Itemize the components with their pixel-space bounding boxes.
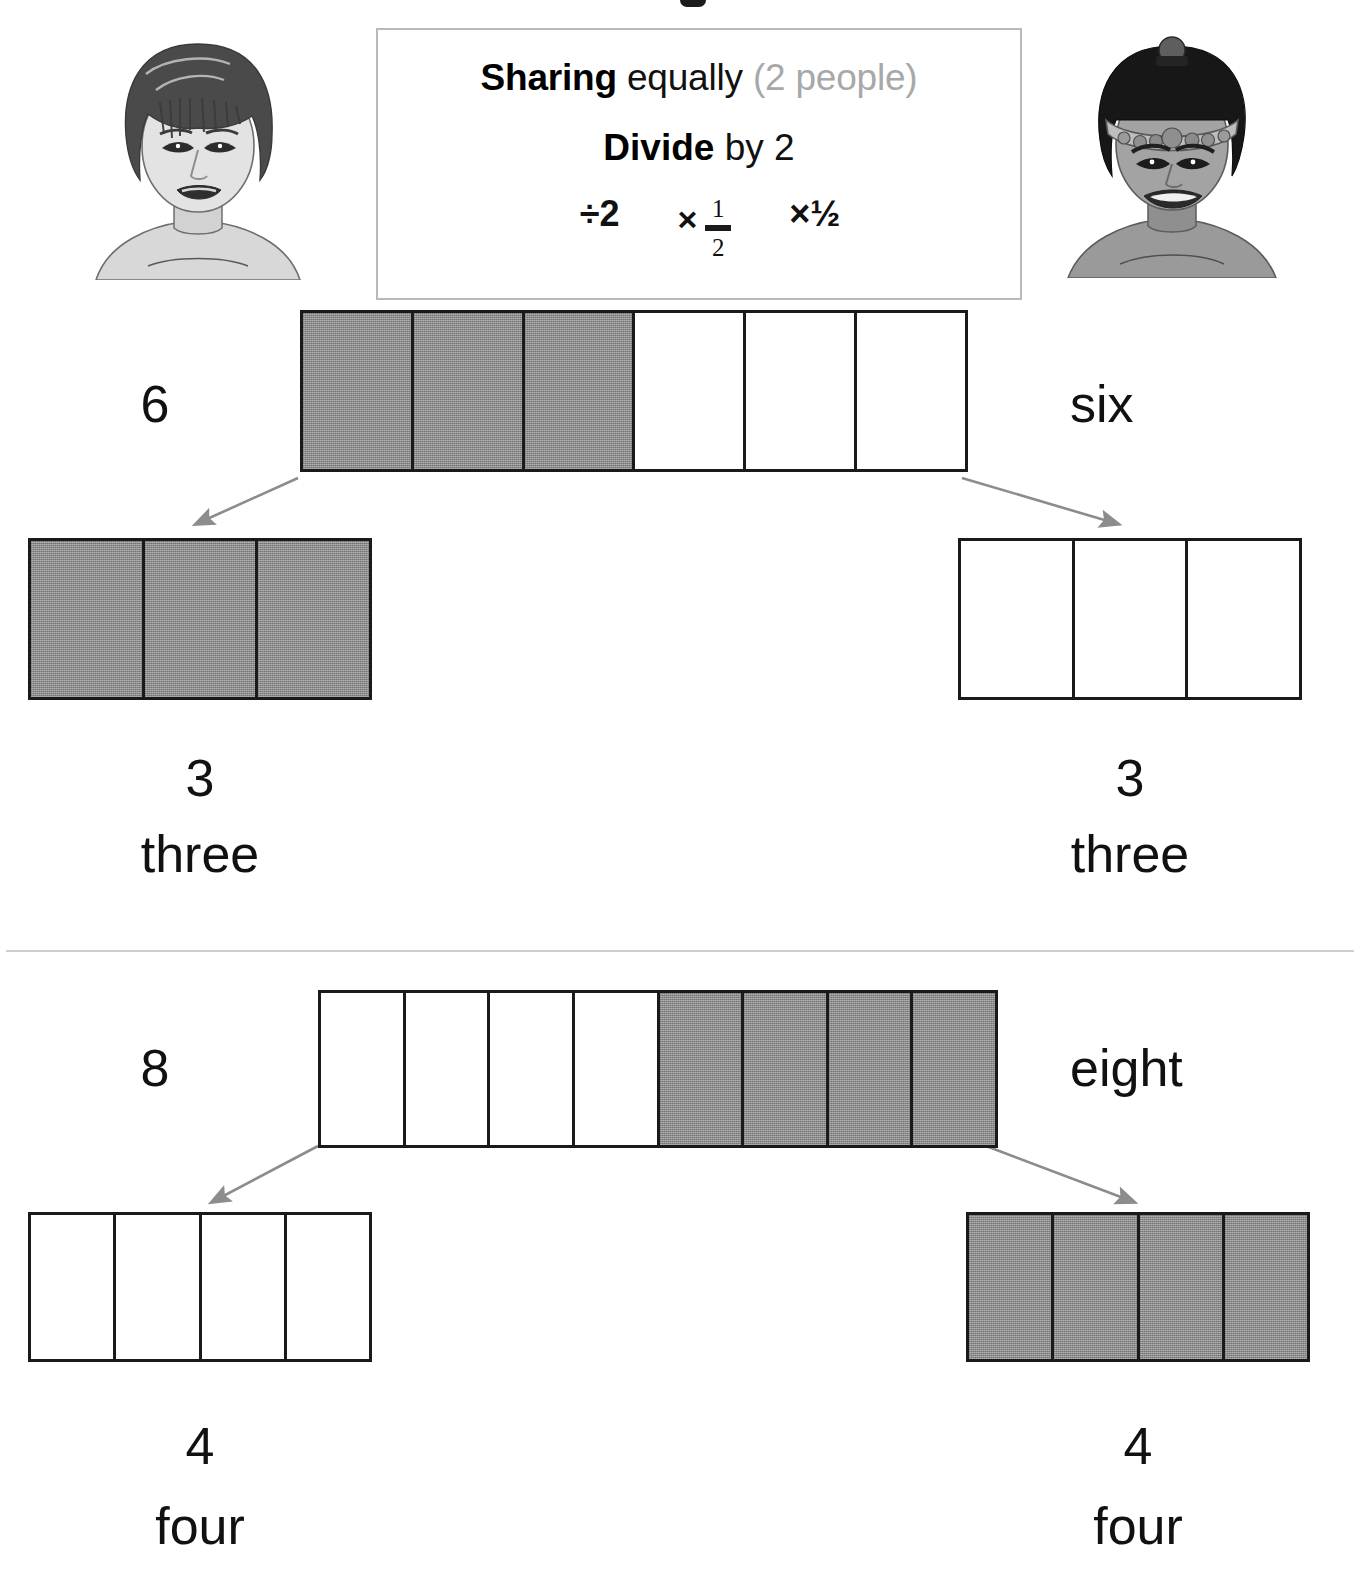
label-four-right-digit: 4 xyxy=(1038,1420,1238,1472)
bar-model-three-left xyxy=(28,538,372,700)
bar-cell-shaded xyxy=(303,313,414,469)
bar-model-four-left xyxy=(28,1212,372,1362)
bar-cell-empty xyxy=(202,1215,287,1359)
bar-cell-empty xyxy=(635,313,746,469)
concept-divide-strong: Divide xyxy=(603,127,714,168)
notation-times-slashed-half-text: ×½ xyxy=(789,196,840,232)
label-three-right-word: three xyxy=(1030,828,1230,880)
label-four-right-word: four xyxy=(1038,1500,1238,1552)
concept-sharing-normal: equally xyxy=(617,57,753,98)
notation-row: ÷2 × 1 2 ×½ xyxy=(378,196,1020,261)
label-six-word: six xyxy=(1070,378,1270,430)
bar-model-three-right xyxy=(958,538,1302,700)
fraction-denominator: 2 xyxy=(712,235,725,261)
label-six-digit: 6 xyxy=(100,378,210,430)
bar-cell-shaded xyxy=(1225,1215,1307,1359)
bar-cell-empty xyxy=(321,993,406,1145)
arrow-six-to-left-three xyxy=(196,478,298,524)
label-three-left-digit: 3 xyxy=(100,752,300,804)
bar-cell-empty xyxy=(287,1215,369,1359)
arrow-eight-to-left-four xyxy=(212,1146,318,1202)
concept-sharing-strong: Sharing xyxy=(481,57,617,98)
stacked-fraction: 1 2 xyxy=(705,196,731,261)
section-divider xyxy=(6,950,1354,952)
avatar-person-beaded-headband xyxy=(1052,28,1292,278)
label-eight-word: eight xyxy=(1070,1042,1310,1094)
multiplication-sign-icon: × xyxy=(677,202,697,236)
bar-cell-empty xyxy=(406,993,491,1145)
fraction-numerator: 1 xyxy=(712,196,725,222)
arrow-six-to-right-three xyxy=(962,478,1118,524)
avatar-person-short-dark-hair xyxy=(78,30,318,280)
notation-divide-by-two: ÷2 xyxy=(580,196,620,232)
concept-box: Sharing equally (2 people) Divide by 2 ÷… xyxy=(376,28,1022,300)
label-three-right-digit: 3 xyxy=(1030,752,1230,804)
fraction-bar-icon xyxy=(705,225,731,231)
notation-times-stacked-half: × 1 2 xyxy=(677,196,731,261)
label-eight-digit: 8 xyxy=(100,1042,210,1094)
concept-line-sharing: Sharing equally (2 people) xyxy=(378,54,1020,102)
label-four-left-word: four xyxy=(100,1500,300,1552)
bar-model-four-right xyxy=(966,1212,1310,1362)
bar-cell-empty xyxy=(31,1215,116,1359)
bar-cell-shaded xyxy=(1054,1215,1139,1359)
bar-cell-shaded xyxy=(525,313,636,469)
bar-cell-shaded xyxy=(145,541,259,697)
concept-divide-normal: by 2 xyxy=(714,127,794,168)
bar-model-eight xyxy=(318,990,998,1148)
arrow-eight-to-right-four xyxy=(986,1146,1134,1202)
notation-times-slashed-half: ×½ xyxy=(789,196,840,232)
bar-cell-empty xyxy=(116,1215,201,1359)
bar-cell-empty xyxy=(490,993,575,1145)
bar-cell-empty xyxy=(746,313,857,469)
label-four-left-digit: 4 xyxy=(100,1420,300,1472)
bar-cell-empty xyxy=(1075,541,1189,697)
bar-cell-shaded xyxy=(829,993,914,1145)
concept-sharing-muted: (2 people) xyxy=(753,57,918,98)
label-three-left-word: three xyxy=(100,828,300,880)
bar-cell-empty xyxy=(575,993,660,1145)
bar-cell-empty xyxy=(1188,541,1299,697)
bar-cell-shaded xyxy=(31,541,145,697)
bar-cell-empty xyxy=(857,313,965,469)
bar-cell-shaded xyxy=(969,1215,1054,1359)
bar-cell-empty xyxy=(961,541,1075,697)
bar-cell-shaded xyxy=(258,541,369,697)
bar-cell-shaded xyxy=(744,993,829,1145)
bar-cell-shaded xyxy=(660,993,745,1145)
bar-cell-shaded xyxy=(1140,1215,1225,1359)
notation-divide-by-two-text: ÷2 xyxy=(580,196,620,232)
concept-line-divide: Divide by 2 xyxy=(378,124,1020,172)
bar-cell-shaded xyxy=(913,993,995,1145)
bar-cell-shaded xyxy=(414,313,525,469)
scan-artifact xyxy=(680,0,706,7)
bar-model-six xyxy=(300,310,968,472)
